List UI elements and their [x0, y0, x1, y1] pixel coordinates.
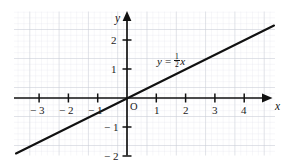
equation-annotation: y = 1 2 x [157, 53, 185, 70]
y-tick-label-2: 2 [111, 35, 117, 46]
x-tick-label-4: 4 [241, 105, 247, 116]
x-tick-label--3: − 3 [30, 105, 44, 116]
x-tick-label-1: 1 [154, 105, 160, 116]
x-axis-label: x [275, 101, 280, 113]
fraction-numerator: 1 [174, 53, 180, 61]
y-tick-label-1: 1 [111, 64, 117, 75]
x-tick-label--2: − 2 [59, 105, 73, 116]
equation-equals-sign: = [165, 56, 171, 67]
y-axis-label: y [115, 13, 120, 25]
y-tick-label--1: − 1 [104, 122, 118, 133]
graph-figure: − 3 − 2 − 1 1 2 3 4 2 1 − 1 − 2 y x O y … [0, 0, 287, 166]
fraction-denominator: 2 [174, 60, 180, 69]
equation-variable: x [180, 56, 185, 67]
origin-label: O [130, 102, 138, 113]
equation-lhs: y [157, 56, 162, 67]
y-tick-label--2: − 2 [104, 151, 118, 162]
x-tick-label-2: 2 [183, 105, 189, 116]
x-tick-label-3: 3 [212, 105, 218, 116]
graph-canvas [0, 0, 287, 166]
equation-fraction-one-half: 1 2 [174, 53, 180, 70]
x-tick-label--1: − 1 [88, 105, 102, 116]
